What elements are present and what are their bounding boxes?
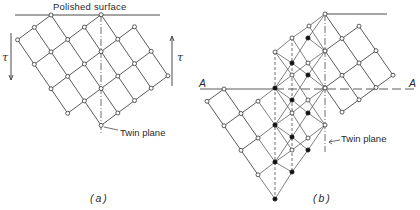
atom-a [166, 74, 170, 78]
atom-a [116, 37, 120, 41]
atom-a [32, 62, 36, 66]
twin-region-bond [275, 100, 292, 125]
lattice-a-bond [101, 113, 118, 125]
lattice-b-left-bond [207, 89, 224, 101]
lattice-b-right-bond [342, 26, 359, 38]
lattice-a-bond [151, 51, 168, 76]
atom-twin-open [323, 86, 327, 90]
lattice-a-bond [101, 15, 118, 40]
atom-b-right [391, 73, 395, 77]
lattice-b-right-bond [359, 51, 376, 63]
lattice-a-bond [101, 39, 118, 51]
atom-b-right [323, 12, 327, 16]
twin-region-bond [308, 113, 325, 125]
atom-a [32, 25, 36, 29]
atom-twin-open [306, 61, 310, 65]
twin-plane-label-b: Twin plane [341, 134, 386, 144]
twin-region-bond [258, 175, 275, 199]
atom-b-right [374, 86, 378, 90]
atom-a [116, 74, 120, 78]
twinning-diagram: Polished surface τ τ Twin plane (a) A A … [0, 0, 420, 210]
atom-twin-open [290, 148, 294, 152]
twin-region-bond [308, 125, 325, 150]
twin-region-bond [308, 100, 325, 125]
shear-stress-label-left: τ [2, 52, 8, 63]
lattice-a-bond [118, 64, 135, 76]
atom-b-right [357, 61, 361, 65]
caption-b: (b) [313, 193, 332, 204]
lattice-b-right-bond [342, 39, 359, 64]
atom-twin-open [323, 123, 327, 127]
twin-region-bond [275, 75, 292, 88]
lattice-a-bond [135, 51, 152, 63]
lattice-a-bond [34, 27, 51, 52]
lattice-a-bond [118, 27, 135, 39]
twin-region-bond [308, 88, 325, 113]
atom-a [16, 38, 20, 42]
atom-b-left [256, 173, 260, 177]
atom-twin-filled [273, 197, 277, 201]
atom-b-left [239, 112, 243, 116]
atom-a [82, 62, 86, 66]
lattice-drawing [0, 0, 420, 210]
atom-b-left [256, 136, 260, 140]
lattice-a-bond [18, 40, 35, 65]
atom-a [82, 99, 86, 103]
lattice-b-right-bond [342, 63, 359, 75]
lattice-a-bond [118, 39, 135, 64]
twin-region-bond [258, 162, 275, 175]
twin-region-bond [258, 101, 275, 125]
lattice-a-bond [51, 52, 68, 77]
lattice-b-right-bond [325, 88, 342, 113]
twin-region-bond [275, 172, 292, 199]
atom-b-right [357, 98, 361, 102]
lattice-a-bond [84, 27, 101, 51]
twin-region-bond [308, 125, 325, 138]
twin-region-bond [275, 125, 292, 150]
atom-twin-open [306, 98, 310, 102]
atom-a [133, 25, 137, 29]
twin-region-bond [275, 113, 292, 125]
lattice-b-right-bond [359, 26, 376, 51]
lattice-a-bond [51, 40, 68, 52]
atom-twin-filled [306, 73, 310, 77]
twin-region-bond [275, 88, 292, 113]
atom-twin-filled [306, 148, 310, 152]
lattice-a-bond [68, 64, 85, 76]
lattice-a-bond [68, 101, 85, 113]
twin-region-bond [308, 63, 325, 88]
atom-twin-filled [290, 135, 294, 139]
atom-a [149, 49, 153, 53]
twin-region-bond [275, 125, 292, 137]
atom-twin-filled [273, 123, 277, 127]
lattice-a-bond [34, 52, 51, 64]
atom-b-left [205, 99, 209, 103]
lattice-a-bond [135, 27, 152, 52]
twin-region-bond [309, 26, 325, 51]
lattice-a-bond [34, 64, 51, 89]
atom-twin-open [290, 73, 294, 77]
atom-a [99, 13, 103, 17]
lattice-a-bond [84, 89, 101, 101]
lattice-b-right-bond [376, 75, 393, 87]
plane-A-label-right: A [409, 78, 416, 89]
lattice-a-bond [84, 52, 101, 64]
twin-plane-label-a: Twin plane [120, 128, 165, 138]
plane-A-label-left: A [199, 78, 206, 89]
twin-region-bond [292, 150, 308, 172]
lattice-b-right-bond [376, 51, 393, 75]
twin-region-bond [275, 38, 292, 52]
lattice-b-left-bond [224, 126, 241, 151]
lattice-a-bond [118, 76, 135, 101]
atom-twin-open [290, 36, 294, 40]
lattice-a-bond [118, 101, 135, 113]
polished-surface-label: Polished surface [53, 2, 126, 12]
atom-twin-filled [290, 61, 294, 65]
lattice-b-right-bond [359, 63, 376, 88]
atom-a [66, 38, 70, 42]
atom-b-right [340, 110, 344, 114]
lattice-a-bond [51, 89, 68, 114]
atom-twin-filled [273, 160, 277, 164]
atom-twin-open [307, 24, 311, 28]
atom-b-right [340, 37, 344, 41]
